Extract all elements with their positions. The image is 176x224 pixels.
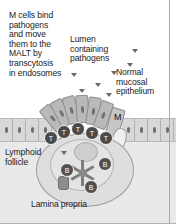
- t-cell: T: [44, 131, 58, 145]
- epithelial-cell: [13, 119, 26, 141]
- pathogen-marker-icon: [106, 93, 112, 97]
- nucleus-icon: [59, 110, 65, 118]
- germinal-center-core: [74, 142, 98, 162]
- pathogen-marker-icon: [61, 151, 67, 155]
- nucleus-icon: [18, 127, 21, 133]
- b-cell: B: [84, 180, 98, 194]
- nucleus-icon: [127, 127, 130, 133]
- lumen-label: Lumen containing pathogens: [70, 35, 130, 64]
- epithelial-cell: [161, 119, 174, 141]
- epithelial-cell: [148, 119, 161, 141]
- lymphoid-follicle-label: Lymphoid follicle: [5, 148, 55, 167]
- pathogen-marker-icon: [132, 49, 138, 53]
- mucosal-immunity-diagram: TTTTTBBB M cells bind pathogens and move…: [0, 0, 176, 224]
- epithelial-cell: [135, 119, 148, 141]
- nucleus-icon: [69, 107, 74, 115]
- b-cell: B: [98, 157, 112, 171]
- lamina-propria-label: Lamina propria: [31, 200, 121, 210]
- normal-epithelium-label: Normal mucosal epithelium: [116, 68, 174, 97]
- nucleus-icon: [153, 127, 156, 133]
- nucleus-icon: [81, 106, 84, 113]
- t-cell: T: [71, 122, 85, 136]
- dendritic-cell-body: [79, 169, 87, 177]
- epithelial-cell: [26, 119, 39, 141]
- pathogen-marker-icon: [95, 83, 101, 87]
- pathogen-marker-icon: [79, 89, 85, 93]
- right-border-rule: [169, 0, 170, 224]
- normal-epithelium-right: [122, 118, 176, 142]
- bottom-border-rule: [0, 223, 176, 224]
- nucleus-icon: [101, 112, 106, 120]
- t-cell: T: [57, 125, 71, 139]
- epithelial-cell: [0, 119, 13, 141]
- plasma-cell: [58, 176, 69, 190]
- t-cell: T: [85, 126, 99, 140]
- t-cell: T: [99, 131, 113, 145]
- nucleus-icon: [91, 108, 95, 115]
- b-cell: B: [60, 163, 74, 177]
- nucleus-icon: [5, 127, 8, 133]
- m-cell-tag: M: [114, 112, 122, 122]
- nucleus-icon: [140, 127, 143, 133]
- nucleus-icon: [31, 127, 34, 133]
